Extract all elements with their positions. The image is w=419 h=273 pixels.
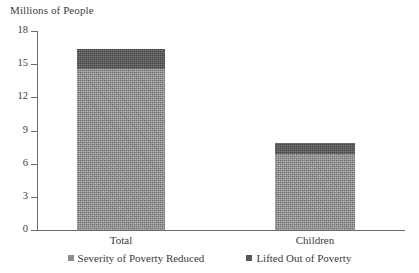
bar-segment[interactable] [275, 143, 355, 154]
category-label-children: Children [275, 234, 355, 246]
y-axis-tick [31, 164, 38, 165]
bar-segment[interactable] [77, 69, 165, 230]
legend-swatch-icon [68, 255, 74, 261]
y-axis-tick-label: 9 [8, 124, 28, 135]
bar-segment[interactable] [77, 49, 165, 69]
y-axis-tick [31, 64, 38, 65]
y-axis-tick-label: 15 [8, 57, 28, 68]
bar-children[interactable] [275, 143, 355, 230]
x-axis-line [37, 230, 405, 231]
y-axis-tick-label: 0 [8, 223, 28, 234]
y-axis-tick-label: 18 [8, 24, 28, 35]
legend-swatch-icon [246, 255, 252, 261]
legend-item-label: Lifted Out of Poverty [256, 252, 351, 264]
legend-item[interactable]: Severity of Poverty Reduced [68, 252, 205, 264]
bar-segment[interactable] [275, 154, 355, 230]
bar-total[interactable] [77, 49, 165, 230]
chart-axis-title: Millions of People [10, 4, 94, 16]
y-axis-tick [31, 97, 38, 98]
y-axis-tick [31, 230, 38, 231]
chart-legend: Severity of Poverty ReducedLifted Out of… [0, 252, 419, 264]
y-axis-tick [31, 31, 38, 32]
legend-item-label: Severity of Poverty Reduced [78, 252, 205, 264]
legend-item[interactable]: Lifted Out of Poverty [246, 252, 351, 264]
y-axis-tick-label: 3 [8, 190, 28, 201]
category-label-total: Total [77, 234, 165, 246]
y-axis-tick-label: 6 [8, 157, 28, 168]
y-axis-tick [31, 197, 38, 198]
y-axis-tick-label: 12 [8, 90, 28, 101]
y-axis-tick [31, 131, 38, 132]
stacked-bar-chart: Millions of People 0369121518 TotalChild… [0, 0, 419, 273]
